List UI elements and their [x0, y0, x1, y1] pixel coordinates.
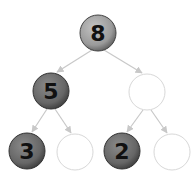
edge-left-leftright	[55, 109, 71, 133]
node-root-label: 8	[90, 21, 105, 46]
edge-root-right	[104, 50, 142, 73]
node-left-right	[57, 134, 93, 170]
node-right-right	[154, 134, 190, 170]
edge-left-leftleft	[32, 109, 47, 132]
node-right-left: 2	[104, 133, 140, 169]
node-left: 5	[33, 73, 69, 109]
node-left-label: 5	[43, 79, 58, 104]
edge-root-left	[57, 50, 92, 72]
node-left-left-label: 3	[19, 139, 34, 164]
node-root: 8	[80, 15, 116, 51]
binary-tree-diagram: 8 5 3 2	[0, 0, 195, 177]
edge-right-rightleft	[127, 110, 143, 132]
node-left-left: 3	[9, 133, 45, 169]
node-right	[129, 74, 165, 110]
node-right-left-label: 2	[114, 139, 129, 164]
edge-right-rightright	[151, 110, 167, 133]
